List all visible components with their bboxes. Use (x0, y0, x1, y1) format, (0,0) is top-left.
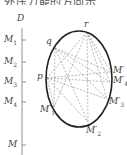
ellipse-diagram (0, 0, 127, 155)
point-label-m1-prime: M′1 (40, 105, 55, 116)
point-label-m2-prime: M′2 (86, 126, 101, 137)
point-label-q: q (46, 37, 52, 46)
dashed-rays (47, 32, 111, 122)
point-label-m3-prime: M′3 (109, 97, 124, 108)
tick-label-m3: M3 (4, 77, 17, 88)
point-label-r: r (84, 20, 88, 29)
tick-label-m2: M2 (4, 57, 17, 68)
point-label-m4-prime: M′4 (113, 76, 127, 87)
point-label-p: p (37, 72, 43, 81)
axis-top-label: D (17, 14, 24, 23)
axis-bottom-label: M (8, 140, 17, 149)
point-label-m-prime: M′ (113, 66, 124, 75)
tick-label-m4: M4 (4, 97, 17, 108)
tick-label-m1: M1 (4, 35, 17, 46)
